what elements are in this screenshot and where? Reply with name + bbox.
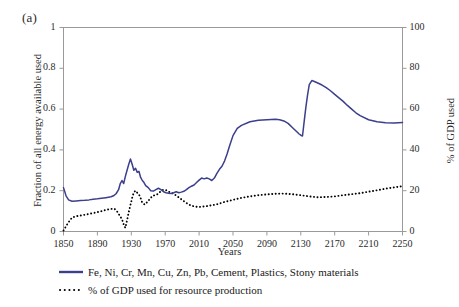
legend-label-gdp: % of GDP used for resource production [88,284,262,296]
y-tick-left-label-0-2: 0.2 [22,184,56,195]
axis-tickmarks [60,28,407,236]
legend-solid-line-icon [58,266,84,278]
y-tick-right-label-20: 20 [410,184,444,195]
y-tick-left-label-1: 1 [22,21,56,32]
y-tick-left-label-0-8: 0.8 [22,61,56,72]
y-tick-right-label-0: 0 [410,225,444,236]
series-gdp-line [64,186,403,230]
y-tick-right-label-40: 40 [410,143,444,154]
legend-label-energy: Fe, Ni, Cr, Mn, Cu, Zn, Pb, Cement, Plas… [88,266,359,278]
y-tick-left-label-0-4: 0.4 [22,143,56,154]
y-tick-left-label-0-6: 0.6 [22,102,56,113]
figure-panel-a: (a) Fraction of all energy available use… [0,0,459,307]
y-tick-left-label-0: 0 [22,225,56,236]
y-tick-right-label-60: 60 [410,102,444,113]
plot-area [0,0,459,307]
series-energy-line [64,81,403,202]
legend-item-gdp: % of GDP used for resource production [58,281,458,299]
y-tick-right-label-80: 80 [410,61,444,72]
legend: Fe, Ni, Cr, Mn, Cu, Zn, Pb, Cement, Plas… [58,263,458,299]
x-tick-label-2250: 2250 [381,238,425,249]
legend-dotted-line-icon [58,284,84,296]
y-tick-right-label-100: 100 [410,21,444,32]
legend-item-energy: Fe, Ni, Cr, Mn, Cu, Zn, Pb, Cement, Plas… [58,263,458,281]
plot-frame [64,28,403,232]
